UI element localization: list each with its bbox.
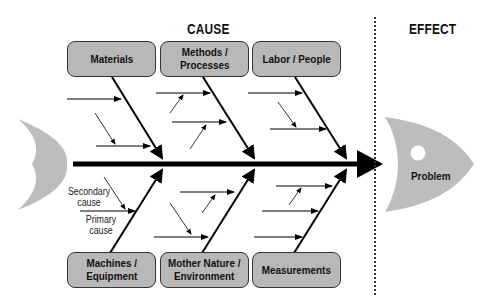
fish-tail-icon — [18, 119, 67, 210]
problem-label: Problem — [411, 170, 451, 182]
fishbone-diagram: CAUSE EFFECT Materials Methods / Process… — [0, 0, 492, 308]
category-label: Mother Nature / Environment — [168, 257, 241, 283]
category-environment: Mother Nature / Environment — [160, 252, 249, 288]
category-label: Labor / People — [262, 53, 330, 66]
cause-header: CAUSE — [187, 21, 230, 37]
category-machines: Machines / Equipment — [67, 252, 156, 288]
category-measurements: Measurements — [252, 252, 341, 288]
spine-arrowhead — [357, 150, 383, 178]
effect-header: EFFECT — [409, 21, 456, 37]
fish-eye-icon — [411, 146, 426, 161]
secondary-cause-label: Secondary cause — [65, 186, 113, 208]
fish-head-icon — [385, 117, 474, 212]
category-labor: Labor / People — [252, 41, 341, 77]
category-label: Methods / Processes — [180, 46, 229, 72]
category-label: Measurements — [262, 264, 331, 277]
category-label: Materials — [90, 53, 133, 66]
category-methods: Methods / Processes — [160, 41, 249, 77]
primary-cause-label: Primary cause — [79, 214, 123, 236]
category-label: Machines / Equipment — [86, 257, 137, 283]
category-materials: Materials — [67, 41, 156, 77]
